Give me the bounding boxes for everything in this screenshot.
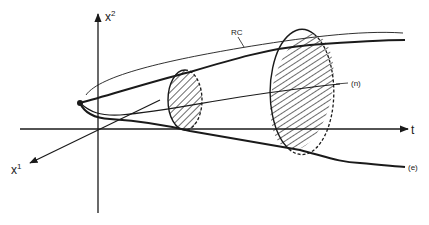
t-axis-label: t — [411, 123, 415, 137]
cross-section-ellipse-1 — [168, 70, 202, 130]
rc-leader — [238, 37, 244, 47]
x1-axis — [30, 100, 160, 163]
e-label: (e) — [408, 163, 418, 172]
phase-space-diagram: x2 x1 t RC (n) (e) — [0, 0, 429, 225]
rc-label: RC — [231, 28, 243, 37]
x2-axis-label: x2 — [105, 9, 116, 24]
upper-trajectory — [80, 40, 405, 103]
x1-axis-label: x1 — [11, 162, 22, 177]
n-label: (n) — [351, 79, 361, 88]
origin-point — [77, 100, 83, 106]
trajectory-e — [80, 103, 405, 167]
n-leader — [336, 83, 348, 84]
